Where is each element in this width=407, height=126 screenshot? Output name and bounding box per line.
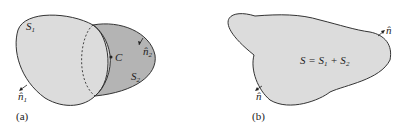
label-c: C — [115, 51, 123, 63]
point-c — [110, 56, 113, 59]
figure-canvas: S1 C n̂2 S2 n̂1 (a) n̂ n̂ S = S1 + S2 (b… — [0, 0, 407, 126]
caption-a: (a) — [16, 110, 29, 123]
label-n-top: n̂ — [386, 24, 392, 36]
label-n1: n̂1 — [18, 90, 27, 104]
caption-b: (b) — [252, 110, 265, 123]
label-n-bottom: n̂ — [256, 90, 262, 102]
